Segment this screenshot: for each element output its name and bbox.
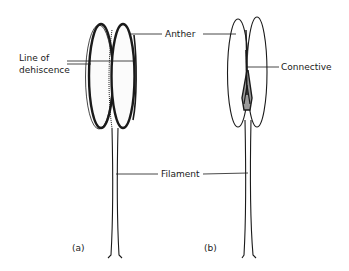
anther-label: Anther (165, 29, 195, 39)
connective-label: Connective (281, 62, 332, 72)
panel-b-caption: (b) (204, 243, 217, 253)
panel-a-caption: (a) (72, 243, 85, 253)
diagram-drawing (0, 0, 349, 271)
stamen-a (86, 24, 137, 258)
stamen-diagram: Anther Line of dehiscence Connective Fil… (0, 0, 349, 271)
filament-label: Filament (161, 169, 200, 179)
line-of-dehiscence-label-line1: Line of (19, 53, 49, 63)
stamen-b (228, 17, 268, 258)
line-of-dehiscence-label-line2: dehiscence (19, 65, 70, 75)
